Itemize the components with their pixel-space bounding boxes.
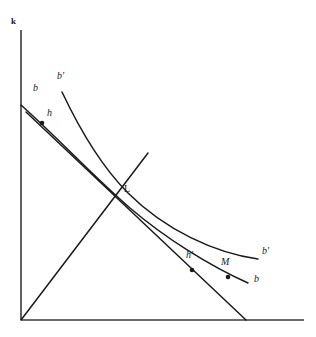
budget-line (26, 112, 246, 320)
point-label-l: L (124, 184, 130, 194)
figure-canvas: k b b′ b′ b h L h′ M (0, 0, 316, 337)
curve-label-bprime-upper-left: b′ (57, 71, 64, 81)
point-label-hprime: h′ (186, 250, 193, 260)
expansion-ray (21, 153, 148, 320)
curve-label-bprime-right: b′ (262, 246, 269, 256)
y-axis-label: k (11, 17, 16, 26)
bprime-curve (62, 92, 258, 259)
point-h-dot (40, 121, 45, 126)
point-label-m: M (221, 257, 229, 267)
b-curve (21, 105, 248, 283)
curve-label-b-upper-left: b (33, 83, 38, 93)
point-hprime-dot (190, 268, 195, 273)
figure-drawing (0, 0, 316, 337)
curve-label-b-right: b (254, 274, 259, 284)
point-m-dot (226, 275, 231, 280)
point-label-h: h (47, 108, 52, 118)
